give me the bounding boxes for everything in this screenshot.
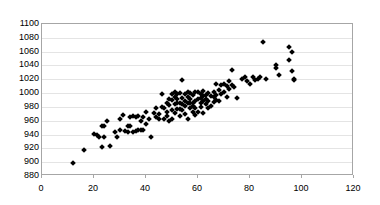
x-axis-tick-label: 0	[11, 184, 71, 193]
data-point	[229, 67, 235, 73]
gridline	[42, 135, 352, 136]
gridline	[42, 162, 352, 163]
y-axis-tick-label: 920	[0, 143, 39, 152]
x-axis-tick-label: 20	[63, 184, 123, 193]
data-point	[180, 77, 186, 83]
data-point	[276, 72, 282, 78]
x-axis-tick-label: 60	[167, 184, 227, 193]
data-point	[224, 94, 230, 100]
y-axis-tick-label: 940	[0, 130, 39, 139]
data-point	[232, 84, 238, 90]
plot-area	[41, 23, 353, 175]
x-axis-tick	[353, 175, 354, 178]
data-point	[154, 105, 160, 111]
y-axis-tick-label: 1060	[0, 47, 39, 56]
gridline	[42, 121, 352, 122]
x-axis-tick-label: 40	[115, 184, 175, 193]
data-point	[159, 92, 165, 98]
gridline	[42, 65, 352, 66]
y-axis-tick-label: 960	[0, 116, 39, 125]
y-axis-tick-label: 900	[0, 157, 39, 166]
x-axis-tick	[301, 175, 302, 178]
data-point	[286, 57, 292, 63]
gridline	[42, 52, 352, 53]
data-point	[263, 76, 269, 82]
x-axis-tick-label: 100	[271, 184, 331, 193]
x-axis-tick	[145, 175, 146, 178]
data-point	[289, 68, 295, 74]
y-axis-tick-label: 1000	[0, 88, 39, 97]
data-point	[81, 148, 87, 154]
x-axis-tick-label: 120	[323, 184, 380, 193]
data-point	[247, 81, 253, 87]
data-point	[234, 95, 240, 101]
y-axis-tick-label: 1040	[0, 60, 39, 69]
y-axis-tick-label: 980	[0, 102, 39, 111]
y-axis-tick-label: 1020	[0, 74, 39, 83]
data-point	[289, 49, 295, 55]
data-point	[128, 123, 134, 129]
y-axis-tick-label: 880	[0, 171, 39, 180]
gridline	[42, 79, 352, 80]
data-point	[70, 160, 76, 166]
x-axis-tick	[197, 175, 198, 178]
data-point	[260, 39, 266, 45]
scatter-chart: 8809009209409609801000102010401060108011…	[0, 0, 380, 205]
x-axis-tick	[249, 175, 250, 178]
data-point	[143, 121, 149, 127]
data-point	[141, 127, 147, 133]
y-axis-tick-label: 1080	[0, 33, 39, 42]
x-axis-tick-label: 80	[219, 184, 279, 193]
gridline	[42, 38, 352, 39]
y-axis-tick-label: 1100	[0, 19, 39, 28]
x-axis-tick	[41, 175, 42, 178]
x-axis-tick	[93, 175, 94, 178]
gridline	[42, 148, 352, 149]
data-point	[200, 110, 206, 116]
